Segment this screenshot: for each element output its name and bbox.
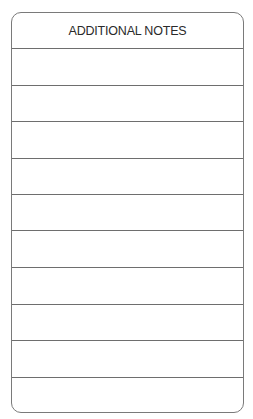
note-line-3[interactable]	[12, 158, 243, 159]
note-line-6[interactable]	[12, 267, 243, 268]
note-line-9[interactable]	[12, 377, 243, 378]
header-divider	[12, 48, 243, 49]
note-line-4[interactable]	[12, 194, 243, 195]
additional-notes-card: ADDITIONAL NOTES	[11, 12, 244, 413]
section-title: ADDITIONAL NOTES	[12, 13, 243, 48]
note-line-8[interactable]	[12, 340, 243, 341]
note-line-7[interactable]	[12, 304, 243, 305]
note-line-2[interactable]	[12, 121, 243, 122]
note-line-1[interactable]	[12, 85, 243, 86]
note-line-5[interactable]	[12, 230, 243, 231]
